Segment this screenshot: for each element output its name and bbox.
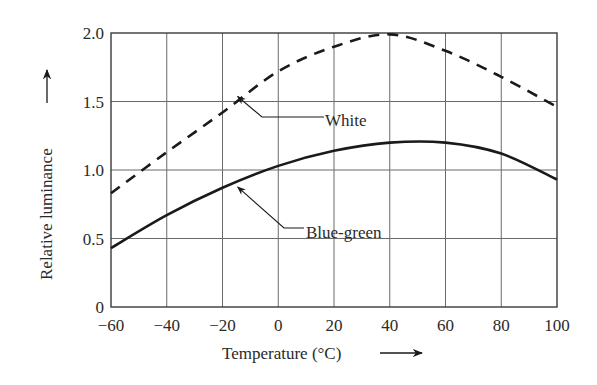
y-tick-label: 2.0	[83, 24, 104, 43]
annotation-label-white: White	[325, 111, 367, 130]
luminance-chart: 00.51.01.52.0 −60−40−20020406080100 Whit…	[0, 0, 597, 385]
x-tick-label: 0	[274, 316, 283, 335]
x-axis-label: Temperature (°C)	[222, 344, 341, 363]
x-axis-label-group: Temperature (°C)	[222, 344, 422, 363]
x-tick-label: −20	[209, 316, 236, 335]
annotation-label-blue-green: Blue-green	[306, 223, 382, 242]
annotation-arrow-icon	[238, 97, 324, 117]
y-axis-ticks: 00.51.01.52.0	[83, 24, 104, 317]
y-tick-label: 0	[96, 298, 105, 317]
x-tick-label: 80	[493, 316, 510, 335]
x-tick-label: 20	[326, 316, 343, 335]
x-tick-label: −60	[98, 316, 125, 335]
y-axis-label: Relative luminance	[37, 148, 56, 280]
grid-lines	[111, 33, 557, 307]
y-tick-label: 1.0	[83, 161, 104, 180]
x-axis-ticks: −60−40−20020406080100	[98, 316, 570, 335]
x-tick-label: 60	[437, 316, 454, 335]
annotation-layer: WhiteBlue-green	[238, 97, 382, 242]
y-tick-label: 0.5	[83, 230, 104, 249]
y-axis-label-group: Relative luminance	[37, 70, 56, 280]
y-tick-label: 1.5	[83, 93, 104, 112]
x-tick-label: 100	[544, 316, 570, 335]
x-tick-label: −40	[153, 316, 180, 335]
annotation-arrow-icon	[238, 187, 304, 228]
x-tick-label: 40	[381, 316, 398, 335]
